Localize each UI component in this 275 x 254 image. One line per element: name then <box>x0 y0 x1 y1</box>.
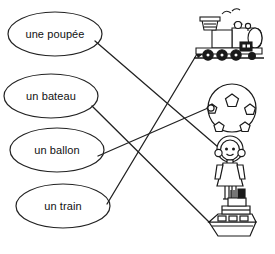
oval-une-poupee[interactable] <box>8 12 102 56</box>
word-ovals <box>4 12 110 228</box>
train-locomotive-picture <box>194 9 264 60</box>
oval-un-bateau[interactable] <box>4 74 98 118</box>
connector-lines <box>92 41 218 222</box>
oval-un-ballon[interactable] <box>10 128 104 172</box>
worksheet-canvas <box>0 0 275 254</box>
connector-ballon-to-ball[interactable] <box>98 108 208 156</box>
oval-un-train[interactable] <box>16 184 110 228</box>
matching-worksheet: une poupée un bateau un ballon un train <box>0 0 275 254</box>
soccer-ball-picture <box>207 84 256 132</box>
connector-train-to-train[interactable] <box>107 54 197 204</box>
